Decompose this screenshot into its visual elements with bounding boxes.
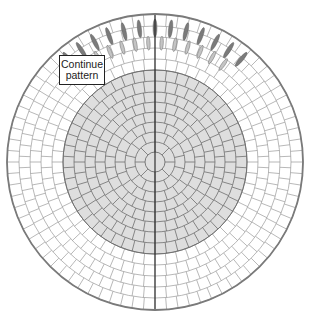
continue-pattern-callout: Continue pattern — [59, 55, 105, 85]
callout-line-2: pattern — [66, 70, 99, 81]
paver-circle-diagram — [0, 0, 310, 324]
